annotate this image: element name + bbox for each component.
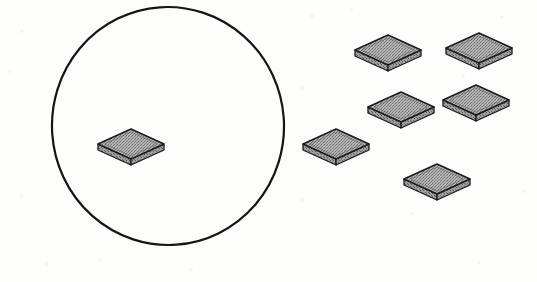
figure-svg [0,0,537,282]
tile-outside-top-right [446,33,512,69]
tile-outside-middle-right [443,85,509,121]
figure-canvas [0,0,537,282]
tile-outside-bottom [404,164,470,200]
tile-outside-top-left [355,35,421,71]
tile-outside-lower-left [303,129,369,165]
tile-outside-middle-left [368,92,434,128]
tiles-group [98,33,512,200]
enclosing-circle-group [44,0,292,253]
tile-inside-circle [98,129,164,165]
enclosing-circle [44,0,292,253]
